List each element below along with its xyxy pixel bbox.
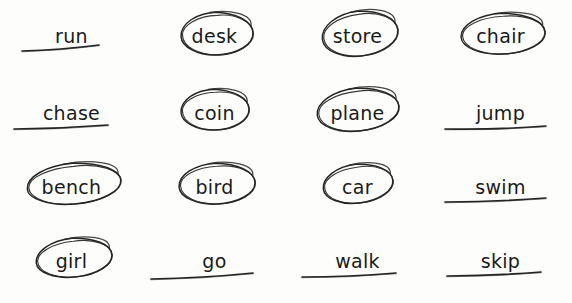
- word-card-car[interactable]: car: [286, 154, 429, 229]
- word-card-walk[interactable]: walk: [286, 228, 429, 303]
- word-text: run: [0, 0, 143, 73]
- word-card-store[interactable]: store: [286, 4, 429, 79]
- word-text: girl: [0, 223, 143, 298]
- word-text: swim: [429, 149, 572, 224]
- word-card-girl[interactable]: girl: [0, 228, 143, 303]
- word-card-bird[interactable]: bird: [143, 154, 286, 229]
- worksheet-canvas: rundeskstorechairchasecoinplanejumpbench…: [0, 0, 572, 303]
- word-text: jump: [429, 75, 572, 150]
- word-card-plane[interactable]: plane: [286, 80, 429, 155]
- word-text: car: [286, 149, 429, 224]
- word-text: go: [143, 223, 286, 298]
- word-card-bench[interactable]: bench: [0, 154, 143, 229]
- word-text: skip: [429, 223, 572, 298]
- word-card-skip[interactable]: skip: [429, 228, 572, 303]
- word-card-coin[interactable]: coin: [143, 80, 286, 155]
- word-card-jump[interactable]: jump: [429, 80, 572, 155]
- word-card-swim[interactable]: swim: [429, 154, 572, 229]
- word-text: desk: [143, 0, 286, 73]
- word-text: walk: [286, 223, 429, 298]
- word-card-go[interactable]: go: [143, 228, 286, 303]
- word-card-run[interactable]: run: [0, 4, 143, 79]
- word-text: store: [286, 0, 429, 73]
- word-card-chase[interactable]: chase: [0, 80, 143, 155]
- word-text: coin: [143, 75, 286, 150]
- word-text: bench: [0, 149, 143, 224]
- word-card-chair[interactable]: chair: [429, 4, 572, 79]
- word-card-desk[interactable]: desk: [143, 4, 286, 79]
- word-text: chair: [429, 0, 572, 73]
- word-text: plane: [286, 75, 429, 150]
- word-text: bird: [143, 149, 286, 224]
- word-text: chase: [0, 75, 143, 150]
